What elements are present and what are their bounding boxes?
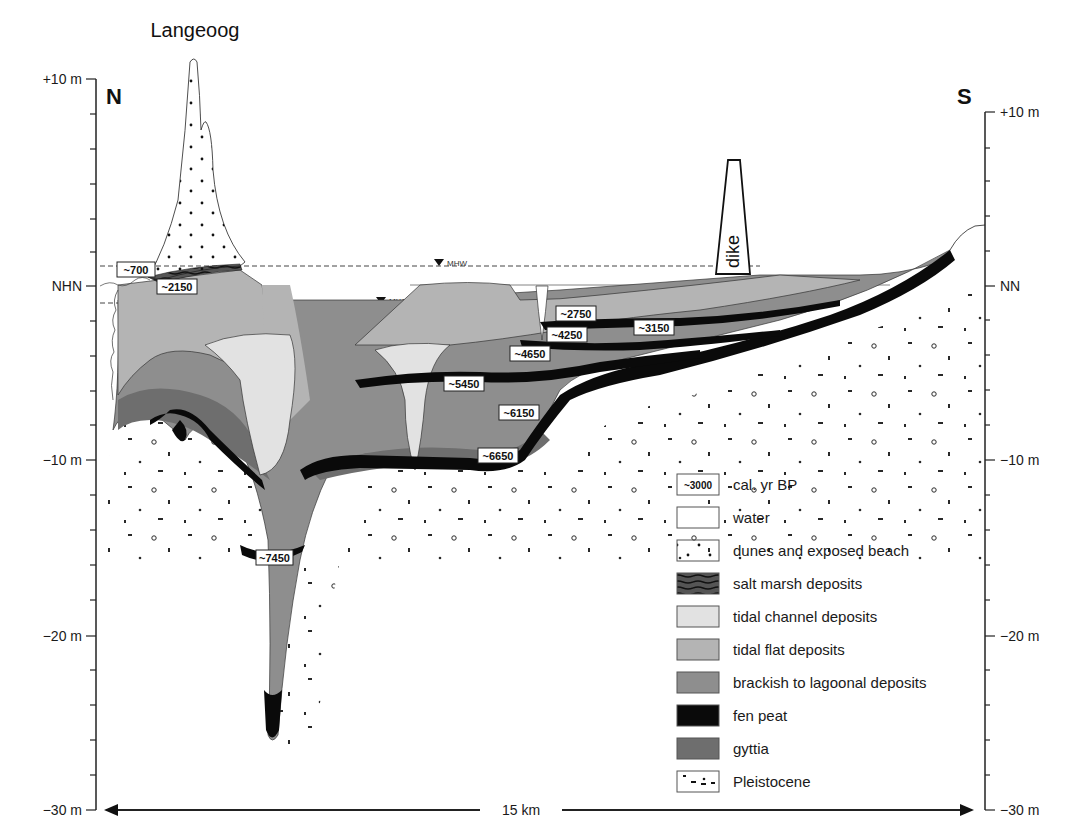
age-label: ~2150: [157, 279, 197, 294]
left-axis-label-nhn: NHN: [52, 278, 82, 294]
age-label: ~2750: [556, 306, 596, 321]
svg-text:~3150: ~3150: [639, 322, 670, 334]
dune-body: [148, 59, 245, 280]
svg-text:~2750: ~2750: [561, 308, 592, 320]
mhw-marker-icon: [434, 259, 444, 266]
south-label: S: [957, 84, 972, 109]
right-axis-label-nn: NN: [1000, 278, 1020, 294]
svg-text:tidal flat deposits: tidal flat deposits: [733, 641, 845, 658]
age-label: ~4650: [510, 346, 550, 361]
svg-text:tidal channel deposits: tidal channel deposits: [733, 608, 877, 625]
legend-item: fen peat: [677, 705, 788, 726]
left-axis-label-minus10: −10 m: [43, 452, 82, 468]
legend-item: dunes and exposed beach: [677, 540, 909, 561]
left-axis-label-minus30: −30 m: [43, 802, 82, 818]
svg-text:~6150: ~6150: [504, 407, 535, 419]
arrow-left-icon: [104, 804, 118, 816]
legend-item: salt marsh deposits: [677, 573, 862, 594]
svg-text:fen peat: fen peat: [733, 707, 788, 724]
dike: dike: [716, 160, 750, 274]
svg-text:~2150: ~2150: [162, 281, 193, 293]
left-axis-label-minus20: −20 m: [43, 628, 82, 644]
svg-text:~4250: ~4250: [552, 329, 583, 341]
age-label: ~5450: [444, 376, 484, 391]
right-axis-label-minus10: −10 m: [1000, 452, 1039, 468]
dike-label: dike: [723, 235, 743, 268]
arrow-right-icon: [960, 804, 974, 816]
scale-bar-label: 15 km: [502, 802, 540, 818]
legend-item: tidal channel deposits: [677, 606, 877, 627]
svg-text:water: water: [732, 509, 770, 526]
cross-section-diagram: Langeoog +10 m N: [0, 0, 1083, 837]
svg-text:Pleistocene: Pleistocene: [733, 773, 811, 790]
svg-text:~5450: ~5450: [449, 378, 480, 390]
legend-item: ~3000 cal. yr BP: [677, 474, 797, 495]
svg-text:brackish to lagoonal deposits: brackish to lagoonal deposits: [733, 674, 926, 691]
svg-text:~4650: ~4650: [515, 348, 546, 360]
legend-item: brackish to lagoonal deposits: [677, 672, 926, 693]
mhw-label: MHW: [447, 259, 467, 268]
left-depth-axis: +10 m NHN −10 m −20 m −30 m: [43, 71, 96, 818]
right-axis-label-minus20: −20 m: [1000, 628, 1039, 644]
age-label: ~4250: [547, 327, 587, 342]
svg-text:salt marsh deposits: salt marsh deposits: [733, 575, 862, 592]
age-label: ~3150: [634, 320, 674, 335]
age-label: ~700: [117, 262, 155, 277]
age-label: ~6150: [499, 405, 539, 420]
svg-text:~3000: ~3000: [684, 480, 713, 491]
right-depth-axis: +10 m NN −10 m −20 m −30 m: [985, 104, 1039, 818]
legend-item: gyttia: [677, 738, 770, 759]
svg-text:~6650: ~6650: [483, 450, 514, 462]
left-axis-label-plus10: +10 m: [43, 71, 82, 87]
right-axis-label-plus10: +10 m: [1000, 104, 1039, 120]
svg-text:gyttia: gyttia: [733, 740, 770, 757]
right-axis-label-minus30: −30 m: [1000, 802, 1039, 818]
svg-text:~7450: ~7450: [259, 552, 290, 564]
age-label: ~7450: [256, 550, 293, 565]
svg-text:dunes and exposed beach: dunes and exposed beach: [733, 542, 909, 559]
age-label: ~6650: [478, 448, 518, 463]
legend-item: Pleistocene: [677, 771, 811, 792]
svg-text:~700: ~700: [124, 264, 149, 276]
legend-item: tidal flat deposits: [677, 639, 845, 660]
north-label: N: [106, 84, 122, 109]
island-title: Langeoog: [151, 19, 240, 41]
scale-bar: 15 km: [104, 802, 974, 818]
svg-text:cal. yr BP: cal. yr BP: [733, 476, 797, 493]
